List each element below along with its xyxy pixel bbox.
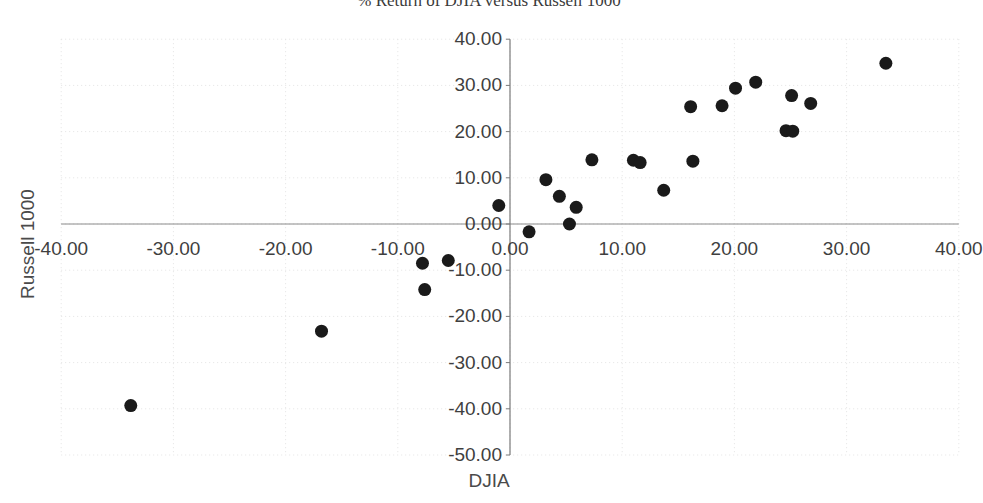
y-tick-label: -10.00: [392, 259, 502, 281]
data-point: [570, 201, 583, 214]
y-tick-label: -30.00: [392, 352, 502, 374]
data-point: [539, 173, 552, 186]
y-axis-title: Russell 1000: [17, 164, 39, 324]
data-point: [492, 199, 505, 212]
data-point: [879, 57, 892, 70]
y-tick-label: -40.00: [392, 398, 502, 420]
x-tick-label: -40.00: [34, 238, 88, 260]
y-tick-label: 30.00: [392, 74, 502, 96]
data-point: [585, 153, 598, 166]
x-tick-label: -10.00: [371, 238, 425, 260]
x-tick-label: 0.00: [492, 238, 529, 260]
y-tick-label: 10.00: [392, 167, 502, 189]
data-point: [124, 399, 137, 412]
x-axis-title: DJIA: [0, 470, 978, 492]
x-tick-label: -20.00: [259, 238, 313, 260]
data-point: [729, 82, 742, 95]
data-point: [634, 156, 647, 169]
data-point: [657, 184, 670, 197]
x-tick-label: 20.00: [711, 238, 759, 260]
y-tick-label: 40.00: [392, 28, 502, 50]
x-tick-label: 40.00: [935, 238, 983, 260]
x-tick-label: 30.00: [823, 238, 871, 260]
data-point: [749, 76, 762, 89]
x-tick-label: 10.00: [598, 238, 646, 260]
x-tick-label: -30.00: [146, 238, 200, 260]
data-point: [785, 89, 798, 102]
data-point: [553, 190, 566, 203]
data-point: [418, 283, 431, 296]
data-point: [686, 155, 699, 168]
data-point: [786, 125, 799, 138]
data-point: [523, 225, 536, 238]
data-point: [315, 325, 328, 338]
y-tick-label: 20.00: [392, 121, 502, 143]
data-point: [563, 218, 576, 231]
data-point: [684, 100, 697, 113]
y-tick-label: -20.00: [392, 305, 502, 327]
y-tick-label: -50.00: [392, 444, 502, 466]
data-point: [804, 97, 817, 110]
data-point: [716, 99, 729, 112]
data-points: [124, 57, 892, 412]
y-tick-label: 0.00: [392, 213, 502, 235]
